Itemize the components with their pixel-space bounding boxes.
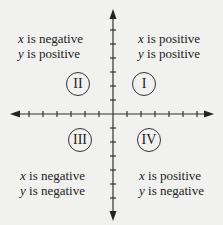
arrow-up-icon bbox=[110, 9, 117, 19]
quadrant-i-numeral: I bbox=[132, 72, 156, 96]
arrow-left-icon bbox=[10, 111, 20, 118]
arrow-down-icon bbox=[110, 211, 117, 221]
quadrant-ii-y-text: is positive bbox=[24, 46, 80, 61]
quadrant-iii-description: x is negative y is negative bbox=[20, 168, 85, 198]
quadrant-i-x-text: is positive bbox=[144, 31, 200, 46]
quadrant-iii-x-text: is negative bbox=[26, 168, 85, 183]
quadrant-ii-description: x is negative y is positive bbox=[18, 31, 83, 61]
quadrant-i-y-text: is positive bbox=[144, 46, 200, 61]
quadrant-iv-y-text: is negative bbox=[145, 183, 204, 198]
quadrant-ii-numeral: II bbox=[66, 72, 90, 96]
arrow-right-icon bbox=[204, 111, 214, 118]
quadrant-iv-numeral: IV bbox=[137, 128, 161, 152]
quadrant-iv-description: x is positive y is negative bbox=[139, 168, 204, 198]
quadrant-iv-x-text: is positive bbox=[145, 168, 201, 183]
quadrant-iii-numeral: III bbox=[68, 128, 92, 152]
quadrant-i-description: x is positive y is positive bbox=[138, 31, 200, 61]
quadrant-ii-x-text: is negative bbox=[24, 31, 83, 46]
quadrant-iii-y-text: is negative bbox=[26, 183, 85, 198]
